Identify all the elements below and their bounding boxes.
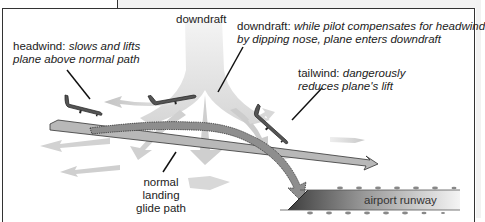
glide-path-pointer — [163, 152, 176, 172]
runway-label: airport runway — [364, 194, 437, 207]
downdraft-callout: downdraft: while pilot compensates for h… — [237, 20, 485, 46]
plane-headwind-icon — [62, 95, 105, 118]
glide-path-line-3: glide path — [128, 202, 194, 215]
downdraft-desc-1: while pilot compensates for headwind — [294, 20, 485, 32]
tailwind-desc-1: dangerously — [343, 67, 406, 79]
glide-path-line-1: normal — [128, 176, 194, 189]
downdraft-top-label: downdraft — [176, 13, 227, 26]
tailwind-term: tailwind: — [298, 67, 340, 79]
headwind-desc-2: plane above normal path — [13, 53, 140, 65]
headwind-callout: headwind: slows and lifts plane above no… — [13, 40, 140, 66]
headwind-desc-1: slows and lifts — [69, 40, 141, 52]
tailwind-callout: tailwind: dangerously reduces plane's li… — [298, 67, 405, 93]
downdraft-desc-2: by dipping nose, plane enters downdraft — [237, 33, 441, 45]
downdraft-term: downdraft: — [237, 20, 291, 32]
glide-path-label: normal landing glide path — [128, 176, 194, 215]
tailwind-desc-2: reduces plane's lift — [298, 80, 393, 92]
headwind-term: headwind: — [13, 40, 65, 52]
glide-path-line-2: landing — [128, 189, 194, 202]
headwind-pointer — [67, 70, 90, 99]
